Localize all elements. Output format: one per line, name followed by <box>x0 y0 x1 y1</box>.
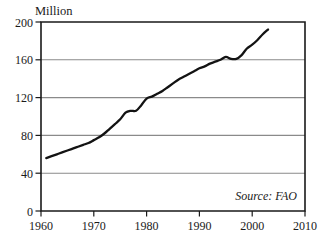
source-note: Source: FAO <box>235 189 297 203</box>
x-tick-label-2000: 2000 <box>240 219 264 233</box>
y-tick-label-120: 120 <box>15 91 33 105</box>
x-tick-label-1990: 1990 <box>187 219 211 233</box>
y-tick-label-0: 0 <box>27 205 33 219</box>
y-tick-label-160: 160 <box>15 53 33 67</box>
x-tick-label-1980: 1980 <box>135 219 159 233</box>
x-tick-label-1960: 1960 <box>29 219 53 233</box>
unit-label: Million <box>35 4 73 18</box>
y-tick-label-200: 200 <box>15 16 33 30</box>
line-chart: Million 200 160 120 80 40 0 1960 1970 19… <box>0 0 326 246</box>
chart-page: Million 200 160 120 80 40 0 1960 1970 19… <box>0 0 326 246</box>
x-tick-label-2010: 2010 <box>293 219 317 233</box>
y-tick-label-80: 80 <box>21 129 33 143</box>
x-tick-label-1970: 1970 <box>82 219 106 233</box>
y-tick-label-40: 40 <box>21 167 33 181</box>
chart-background <box>0 0 326 246</box>
